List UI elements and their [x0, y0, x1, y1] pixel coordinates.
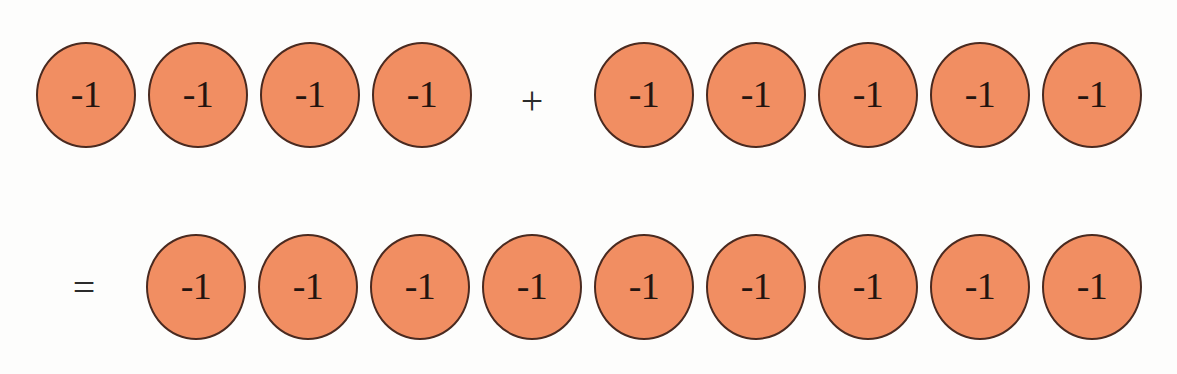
chip-neg-one[interactable]: -1	[818, 234, 918, 340]
chip-label: -1	[741, 75, 772, 113]
chip-label: -1	[517, 267, 548, 305]
chip-neg-one[interactable]: -1	[1042, 234, 1142, 340]
chip-label: -1	[965, 75, 996, 113]
chip-neg-one[interactable]: -1	[930, 234, 1030, 340]
chip-neg-one[interactable]: -1	[930, 42, 1030, 148]
chip-label: -1	[405, 267, 436, 305]
chip-label: -1	[1077, 75, 1108, 113]
plus-operator: +	[512, 81, 552, 121]
chip-label: -1	[295, 75, 326, 113]
chip-neg-one[interactable]: -1	[258, 234, 358, 340]
chip-neg-one[interactable]: -1	[1042, 42, 1142, 148]
chip-label: -1	[71, 75, 102, 113]
chip-neg-one[interactable]: -1	[260, 42, 360, 148]
chip-label: -1	[183, 75, 214, 113]
chip-label: -1	[853, 75, 884, 113]
chip-label: -1	[407, 75, 438, 113]
chip-label: -1	[965, 267, 996, 305]
chip-label: -1	[741, 267, 772, 305]
chip-neg-one[interactable]: -1	[36, 42, 136, 148]
chip-neg-one[interactable]: -1	[706, 42, 806, 148]
chip-label: -1	[181, 267, 212, 305]
chip-neg-one[interactable]: -1	[146, 234, 246, 340]
chip-label: -1	[1077, 267, 1108, 305]
chip-neg-one[interactable]: -1	[818, 42, 918, 148]
diagram-canvas: -1 -1 -1 -1 + -1 -1 -1 -1 -1 =	[0, 0, 1177, 374]
chip-neg-one[interactable]: -1	[482, 234, 582, 340]
chip-neg-one[interactable]: -1	[148, 42, 248, 148]
chip-label: -1	[629, 267, 660, 305]
chip-neg-one[interactable]: -1	[594, 234, 694, 340]
equals-operator: =	[64, 268, 104, 308]
chip-neg-one[interactable]: -1	[370, 234, 470, 340]
chip-label: -1	[629, 75, 660, 113]
chip-neg-one[interactable]: -1	[372, 42, 472, 148]
chip-label: -1	[853, 267, 884, 305]
chip-neg-one[interactable]: -1	[594, 42, 694, 148]
chip-neg-one[interactable]: -1	[706, 234, 806, 340]
chip-label: -1	[293, 267, 324, 305]
